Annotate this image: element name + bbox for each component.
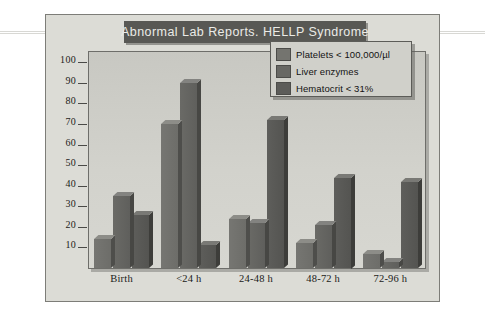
- bar: [94, 239, 111, 268]
- bar-side: [313, 240, 317, 268]
- bar-side: [351, 174, 355, 268]
- y-axis: 100908070605040302010: [46, 51, 88, 270]
- y-axis-tick-label: 10: [65, 239, 76, 250]
- bar: [401, 182, 418, 268]
- bar-group: [94, 52, 149, 268]
- bar-side: [197, 79, 201, 268]
- bar-side: [284, 116, 288, 268]
- chart-title-banner: Abnormal Lab Reports. HELLP Syndrome: [124, 21, 366, 43]
- y-axis-tick-mark: [78, 186, 87, 187]
- bar-top: [334, 174, 355, 178]
- bar-side: [149, 211, 153, 268]
- bar: [296, 243, 313, 268]
- bar-face: [382, 262, 399, 268]
- y-axis-tick-mark: [78, 124, 87, 125]
- bar-side: [130, 192, 134, 268]
- bar-face: [267, 120, 284, 268]
- y-axis-tick-label: 100: [60, 54, 76, 65]
- bar-side: [216, 242, 220, 268]
- legend-label: Platelets < 100,000/µl: [296, 49, 390, 60]
- y-axis-tick-label: 20: [65, 219, 76, 230]
- bar-top: [401, 178, 422, 182]
- bar-top: [248, 219, 269, 223]
- bar-face: [180, 83, 197, 268]
- x-axis-category-label: 72-96 h: [357, 273, 424, 284]
- bar: [132, 215, 149, 268]
- x-axis-category-label: <24 h: [155, 273, 222, 284]
- bar-side: [418, 178, 422, 268]
- legend-item: Platelets < 100,000/µl: [276, 46, 406, 62]
- bar: [248, 223, 265, 268]
- bar-face: [161, 124, 178, 268]
- chart-legend: Platelets < 100,000/µl Liver enzymes Hem…: [270, 41, 412, 97]
- legend-item: Liver enzymes: [276, 63, 406, 79]
- y-axis-tick-label: 40: [65, 178, 76, 189]
- bar: [267, 120, 284, 268]
- bar-face: [315, 225, 332, 268]
- bar: [363, 254, 380, 268]
- x-axis-category-label: 48-72 h: [290, 273, 357, 284]
- page-title: Abnormal Lab Reports. HELLP Syndrome: [121, 25, 369, 39]
- bar: [315, 225, 332, 268]
- legend-swatch-icon: [276, 82, 291, 95]
- bar-top: [363, 250, 384, 254]
- legend-label: Hematocrit < 31%: [296, 83, 373, 94]
- y-axis-tick-label: 70: [65, 116, 76, 127]
- chart-figure: Abnormal Lab Reports. HELLP Syndrome 100…: [45, 14, 440, 302]
- y-axis-tick-label: 50: [65, 157, 76, 168]
- bar-top: [267, 116, 288, 120]
- y-axis-tick-mark: [78, 145, 87, 146]
- bar-top: [229, 215, 250, 219]
- bar-face: [113, 196, 130, 268]
- bar-side: [246, 215, 250, 268]
- bar-face: [248, 223, 265, 268]
- y-axis-tick-label: 90: [65, 75, 76, 86]
- legend-swatch-icon: [276, 65, 291, 78]
- bar-face: [363, 254, 380, 268]
- bar: [161, 124, 178, 268]
- y-axis-tick-mark: [78, 227, 87, 228]
- legend-swatch-icon: [276, 48, 291, 61]
- x-axis-category-label: 24-48 h: [222, 273, 289, 284]
- y-axis-tick-mark: [78, 165, 87, 166]
- bar-group: [161, 52, 216, 268]
- legend-label: Liver enzymes: [296, 66, 359, 77]
- bar: [199, 245, 216, 268]
- y-axis-tick-mark: [78, 206, 87, 207]
- y-axis-tick-label: 60: [65, 137, 76, 148]
- bar: [229, 219, 246, 268]
- x-axis-category-label: Birth: [88, 273, 155, 284]
- bar-face: [334, 178, 351, 269]
- y-axis-tick-mark: [78, 83, 87, 84]
- bar-face: [94, 239, 111, 268]
- y-axis-tick-label: 80: [65, 95, 76, 106]
- bar-face: [401, 182, 418, 268]
- bar: [382, 262, 399, 268]
- bar-face: [229, 219, 246, 268]
- bar: [180, 83, 197, 268]
- bar-side: [332, 221, 336, 268]
- x-axis: Birth<24 h24-48 h48-72 h72-96 h: [88, 273, 426, 295]
- y-axis-tick-mark: [78, 247, 87, 248]
- bar-side: [178, 120, 182, 268]
- bar-side: [265, 219, 269, 268]
- bar: [113, 196, 130, 268]
- bar-side: [111, 236, 115, 268]
- bar: [334, 178, 351, 269]
- bar-face: [296, 243, 313, 268]
- y-axis-tick-mark: [78, 103, 87, 104]
- bar-face: [132, 215, 149, 268]
- y-axis-tick-label: 30: [65, 198, 76, 209]
- bar-face: [199, 245, 216, 268]
- legend-item: Hematocrit < 31%: [276, 80, 406, 96]
- y-axis-tick-mark: [78, 62, 87, 63]
